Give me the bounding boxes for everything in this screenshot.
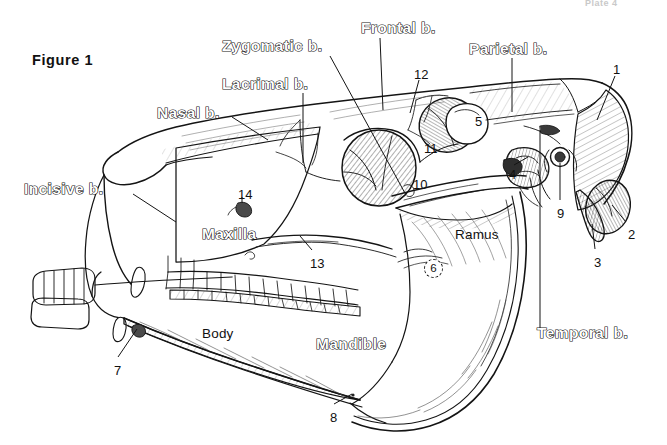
marker-11: 11 (424, 142, 438, 155)
figure-label: Figure 1 (32, 53, 93, 68)
marker-13: 13 (310, 257, 324, 270)
bone-label-mandible: Mandible (316, 336, 386, 352)
marker-7: 7 (114, 364, 121, 377)
bone-label-nasal: Nasal b. (157, 105, 220, 121)
marker-2: 2 (628, 228, 635, 241)
marker-9: 9 (557, 207, 564, 220)
marker-10: 10 (413, 178, 427, 191)
marker-8: 8 (330, 411, 337, 424)
bone-label-incisive: Incisive b. (24, 181, 103, 197)
bone-label-lacrimal: Lacrimal b. (222, 76, 308, 92)
leader-line (133, 194, 176, 222)
marker-3: 3 (594, 256, 601, 269)
marker-5: 5 (475, 115, 482, 128)
plate-header: Plate 4 (585, 0, 618, 8)
illustration-plate: Plate 4 Figure 1 Incisive b.Nasal b.Lacr… (0, 0, 667, 445)
marker-14: 14 (238, 188, 252, 201)
bone-label-zygomatic: Zygomatic b. (222, 38, 322, 54)
bone-label-maxilla: Maxilla (202, 226, 257, 242)
bone-label-frontal: Frontal b. (361, 20, 436, 36)
horse-skull-illustration (0, 0, 667, 445)
region-label-body: Body (202, 327, 234, 341)
marker-4: 4 (509, 168, 516, 181)
bone-label-parietal: Parietal b. (469, 41, 548, 57)
marker-1: 1 (613, 63, 620, 76)
region-label-ramus: Ramus (455, 228, 499, 242)
marker-12: 12 (414, 68, 428, 81)
leader-line (380, 38, 383, 110)
leader-line (300, 236, 312, 250)
bone-label-temporal: Temporal b. (537, 325, 628, 341)
marker-6: 6 (424, 259, 443, 278)
